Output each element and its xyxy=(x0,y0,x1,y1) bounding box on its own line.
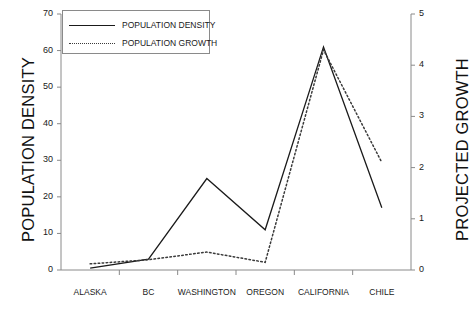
series-line xyxy=(90,50,382,264)
y-axis-left-tick-label: 70 xyxy=(27,9,53,18)
solid-line-icon xyxy=(69,22,115,29)
y-axis-right-tick-label: 4 xyxy=(419,60,445,69)
y-axis-left-title: POPULATION DENSITY xyxy=(19,40,38,260)
legend-item-population-growth: POPULATION GROWTH xyxy=(69,36,217,50)
y-axis-left-tick-label: 10 xyxy=(27,228,53,237)
y-axis-right-tick-label: 3 xyxy=(419,111,445,120)
legend-label: POPULATION DENSITY xyxy=(122,21,215,30)
y-axis-right-tick-label: 1 xyxy=(419,214,445,223)
legend-item-population-density: POPULATION DENSITY xyxy=(69,18,215,32)
x-axis-category-label: CHILE xyxy=(337,288,427,297)
y-axis-right-tick-label: 0 xyxy=(419,265,445,274)
y-axis-right-tick-label: 5 xyxy=(419,9,445,18)
y-axis-left-tick-label: 50 xyxy=(27,82,53,91)
y-axis-left-tick-label: 0 xyxy=(27,265,53,274)
legend: POPULATION DENSITY POPULATION GROWTH xyxy=(62,10,210,54)
y-axis-left-tick-label: 30 xyxy=(27,155,53,164)
legend-label: POPULATION GROWTH xyxy=(122,39,217,48)
line-chart: POPULATION DENSITY PROJECTED GROWTH 0102… xyxy=(0,0,472,309)
y-axis-left-tick-label: 60 xyxy=(27,46,53,55)
y-axis-left-tick-label: 40 xyxy=(27,119,53,128)
series-paths xyxy=(90,47,382,268)
y-axis-right-tick-label: 2 xyxy=(419,163,445,172)
y-axis-right-title: PROJECTED GROWTH xyxy=(453,40,472,260)
dotted-line-icon xyxy=(69,40,115,47)
series-line xyxy=(90,47,382,268)
y-axis-left-tick-label: 20 xyxy=(27,192,53,201)
